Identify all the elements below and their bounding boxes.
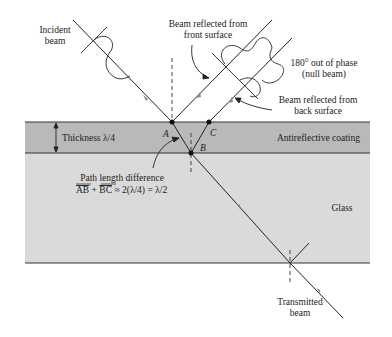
front-reflect-callout [192, 45, 207, 77]
path-diff-plus: + [89, 185, 99, 195]
diagram-canvas: Incident beam Beam reflected from front … [0, 0, 392, 337]
incident-beam [73, 20, 172, 122]
back-reflect-label-1: Beam reflected from [279, 95, 358, 105]
back-reflect-callout [237, 99, 272, 110]
thickness-label: Thickness λ/4 [62, 133, 115, 143]
incident-beam-label-2: beam [45, 36, 66, 46]
incident-beam-label-1: Incident [39, 25, 70, 35]
glass-layer [25, 153, 370, 263]
phase-label-1: 180° out of phase [291, 58, 358, 68]
path-diff-formula: AB + BC ≈ 2(λ/4) = λ/2 [76, 185, 167, 196]
front-reflect-label-1: Beam reflected from [169, 19, 248, 29]
point-b-dot [189, 151, 194, 156]
back-reflect-callout-arrow [235, 98, 241, 103]
transmitted-label-2: beam [290, 308, 311, 318]
path-diff-rest: ≈ 2(λ/4) = λ/2 [112, 185, 167, 196]
null-beam-waves [212, 38, 284, 99]
path-diff-bc: BC [99, 185, 112, 195]
transmitted-label-1: Transmitted [277, 297, 323, 307]
point-a-label: A [162, 129, 169, 139]
point-b-label-main: B [200, 143, 206, 153]
phase-label-2: (null beam) [302, 69, 346, 80]
front-reflect-callout-arrow [203, 74, 209, 79]
path-diff-label-1: Path length difference [80, 173, 164, 183]
point-a-dot [170, 120, 175, 125]
point-c-dot [207, 120, 212, 125]
point-c-label: C [210, 128, 217, 138]
back-reflect-label-2: back surface [294, 106, 342, 116]
coating-label: Antireflective coating [277, 133, 360, 143]
front-reflect-label-2: front surface [184, 30, 232, 40]
path-diff-ab: AB [76, 185, 89, 195]
glass-label: Glass [331, 203, 352, 213]
